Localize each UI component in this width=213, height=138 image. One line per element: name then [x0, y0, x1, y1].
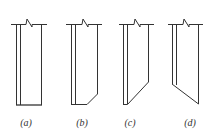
figure-a: [11, 19, 47, 105]
break-line-d: [168, 19, 203, 27]
figure-label-a: (a): [11, 117, 41, 128]
figure-label-b: (b): [67, 117, 97, 128]
figure-b: [66, 19, 102, 105]
figure-d: [168, 19, 203, 104]
wall-diagonal-d: [172, 84, 199, 104]
figure-label-d: (d): [175, 117, 205, 128]
figure-label-c: (c): [115, 117, 145, 128]
wall-diagonal-c: [123, 24, 149, 105]
wall-chamfer-b: [71, 24, 98, 105]
figure-c: [119, 19, 154, 105]
